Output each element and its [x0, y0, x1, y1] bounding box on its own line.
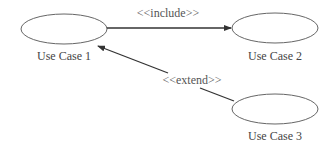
use-case-2[interactable]: Use Case 2: [232, 13, 318, 63]
use-case-3[interactable]: Use Case 3: [232, 94, 318, 143]
use-case-1-label: Use Case 1: [37, 49, 91, 63]
use-case-1[interactable]: Use Case 1: [21, 14, 107, 63]
use-case-3-label: Use Case 3: [248, 129, 302, 143]
use-case-3-ellipse[interactable]: [232, 94, 318, 124]
extend-arrow-tail[interactable]: [200, 88, 234, 101]
use-case-1-ellipse[interactable]: [21, 14, 107, 44]
extend-stereotype-label: <<extend>>: [162, 73, 221, 87]
include-relationship[interactable]: <<include>>: [107, 6, 231, 28]
extend-arrow-head[interactable]: [98, 46, 168, 73]
extend-relationship[interactable]: <<extend>>: [98, 46, 234, 101]
use-case-2-label: Use Case 2: [248, 49, 302, 63]
use-case-2-ellipse[interactable]: [232, 13, 318, 43]
use-case-diagram: Use Case 1 Use Case 2 Use Case 3 <<inclu…: [0, 0, 335, 147]
include-stereotype-label: <<include>>: [137, 6, 200, 20]
